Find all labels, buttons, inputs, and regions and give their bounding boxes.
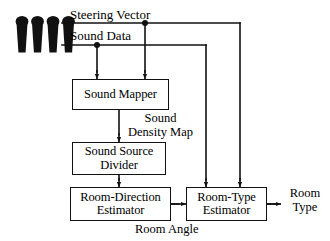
signal-label-room-type: Room Type xyxy=(283,187,327,215)
block-room-type-estimator: Room-Type Estimator xyxy=(186,187,267,221)
block-sound-source-divider: Sound Source Divider xyxy=(72,142,166,175)
block-sound-mapper: Sound Mapper xyxy=(72,79,169,110)
signal-label-steering-vector: Steering Vector xyxy=(70,8,150,22)
block-room-direction-estimator: Room-Direction Estimator xyxy=(70,187,171,221)
signal-label-room-angle: Room Angle xyxy=(135,223,199,237)
block-room-type-estimator-label: Room-Type Estimator xyxy=(197,191,256,218)
signal-label-sound-density-map: Sound Density Map xyxy=(128,112,193,140)
block-diagram: Sound Mapper Sound Source Divider Room-D… xyxy=(0,0,330,241)
microphone-array-icon xyxy=(16,16,75,53)
signal-label-sound-data: Sound Data xyxy=(70,29,131,43)
block-sound-mapper-label: Sound Mapper xyxy=(84,88,157,102)
block-room-direction-estimator-label: Room-Direction Estimator xyxy=(80,191,161,218)
block-sound-source-divider-label: Sound Source Divider xyxy=(85,145,154,172)
